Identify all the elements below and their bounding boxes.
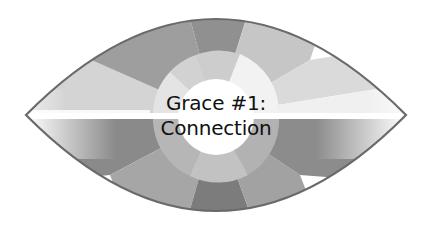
eye-diagram: Grace #1: Connection xyxy=(0,0,432,227)
title-line-1: Grace #1: xyxy=(0,91,432,116)
title-line-2: Connection xyxy=(0,116,432,141)
diagram-title: Grace #1: Connection xyxy=(0,91,432,141)
